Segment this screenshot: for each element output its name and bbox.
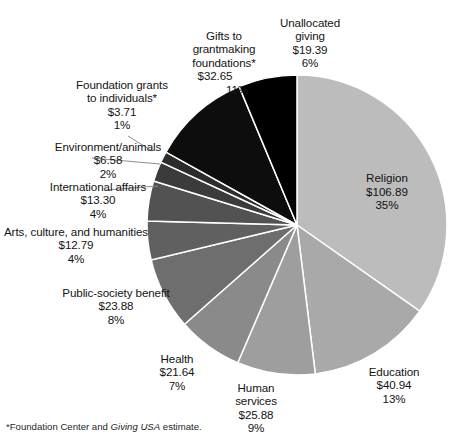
label-public-society-benefit-percent: 8%: [46, 313, 186, 326]
label-grantmaking-foundations-name-2: grantmaking: [160, 42, 288, 55]
footnote-suffix: estimate.: [160, 421, 202, 432]
footnote-source-italic: Giving USA: [111, 421, 161, 432]
pie-chart-figure: Unallocated giving $19.39 6% Gifts to gr…: [0, 0, 456, 444]
label-foundation-grants-individuals-name-2: to individuals*: [53, 91, 191, 104]
label-international-affairs-amount: $13.30: [28, 193, 168, 206]
label-human-services-percent: 9%: [214, 421, 298, 434]
label-environment-animals-amount: $6.58: [38, 153, 178, 166]
label-international-affairs-percent: 4%: [28, 207, 168, 220]
footnote: *Foundation Center and Giving USA estima…: [6, 421, 202, 432]
pie-slice-group: [147, 75, 447, 375]
label-unallocated-giving-name-1: Unallocated: [255, 16, 365, 29]
label-arts-culture-humanities-name: Arts, culture, and humanities: [3, 225, 149, 238]
label-public-society-benefit: Public-society benefit $23.88 8%: [46, 286, 186, 326]
label-education-name: Education: [348, 365, 440, 378]
label-human-services-amount: $25.88: [214, 408, 298, 421]
label-education-percent: 13%: [348, 392, 440, 405]
footnote-prefix: *Foundation Center and: [6, 421, 111, 432]
label-public-society-benefit-amount: $23.88: [46, 299, 186, 312]
label-human-services-name-1: Human: [214, 381, 298, 394]
label-religion-name: Religion: [339, 171, 435, 185]
label-environment-animals-percent: 2%: [38, 167, 178, 180]
label-public-society-benefit-name: Public-society benefit: [46, 286, 186, 299]
label-international-affairs-name: International affairs: [28, 180, 168, 193]
label-grantmaking-foundations-name-3: foundations*: [160, 56, 288, 69]
label-human-services-name-2: services: [214, 394, 298, 407]
label-religion: Religion $106.89 35%: [339, 171, 435, 212]
label-education: Education $40.94 13%: [348, 365, 440, 405]
label-foundation-grants-individuals-percent: 1%: [53, 118, 191, 131]
label-health-percent: 7%: [141, 379, 213, 392]
label-environment-animals: Environment/animals $6.58 2%: [38, 140, 178, 180]
label-arts-culture-humanities: Arts, culture, and humanities $12.79 4%: [3, 225, 149, 265]
label-foundation-grants-individuals-amount: $3.71: [53, 105, 191, 118]
label-health-name: Health: [141, 352, 213, 365]
label-international-affairs: International affairs $13.30 4%: [28, 180, 168, 220]
label-grantmaking-foundations-name-1: Gifts to: [160, 29, 288, 42]
label-religion-amount: $106.89: [339, 185, 435, 199]
label-health-amount: $21.64: [141, 365, 213, 378]
label-education-amount: $40.94: [348, 378, 440, 391]
label-arts-culture-humanities-percent: 4%: [3, 252, 149, 265]
label-human-services: Human services $25.88 9%: [214, 381, 298, 435]
label-foundation-grants-individuals-name-1: Foundation grants: [53, 78, 191, 91]
label-foundation-grants-individuals: Foundation grants to individuals* $3.71 …: [53, 78, 191, 132]
label-arts-culture-humanities-amount: $12.79: [3, 238, 149, 251]
label-environment-animals-name: Environment/animals: [38, 140, 178, 153]
label-health: Health $21.64 7%: [141, 352, 213, 392]
label-religion-percent: 35%: [339, 198, 435, 212]
